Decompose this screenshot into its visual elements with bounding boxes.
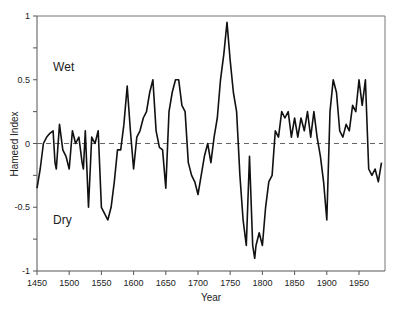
wet-annotation: Wet xyxy=(53,60,75,74)
x-tick-label: 1450 xyxy=(27,278,47,288)
dry-annotation: Dry xyxy=(53,213,72,227)
y-tick-label: -1 xyxy=(22,266,30,276)
y-axis-label: Hameed Index xyxy=(9,111,20,176)
y-tick-label: 1 xyxy=(25,11,30,21)
y-tick-label: 0 xyxy=(25,139,30,149)
x-tick-label: 1650 xyxy=(156,278,176,288)
hameed-index-chart: 10.50-0.5-1 1450150015501600165017001750… xyxy=(0,0,401,311)
x-tick-label: 1750 xyxy=(220,278,240,288)
x-tick-label: 1900 xyxy=(317,278,337,288)
y-tick-label: -0.5 xyxy=(14,202,30,212)
x-tick-label: 1800 xyxy=(252,278,272,288)
x-axis-label: Year xyxy=(201,292,222,303)
x-tick-label: 1550 xyxy=(91,278,111,288)
x-tick-label: 1950 xyxy=(349,278,369,288)
data-series-line xyxy=(37,22,382,258)
x-tick-label: 1500 xyxy=(59,278,79,288)
y-tick-label: 0.5 xyxy=(17,75,30,85)
x-tick-label: 1700 xyxy=(188,278,208,288)
x-tick-label: 1600 xyxy=(124,278,144,288)
x-ticks: 1450150015501600165017001750180018501900… xyxy=(27,271,369,288)
x-tick-label: 1850 xyxy=(285,278,305,288)
